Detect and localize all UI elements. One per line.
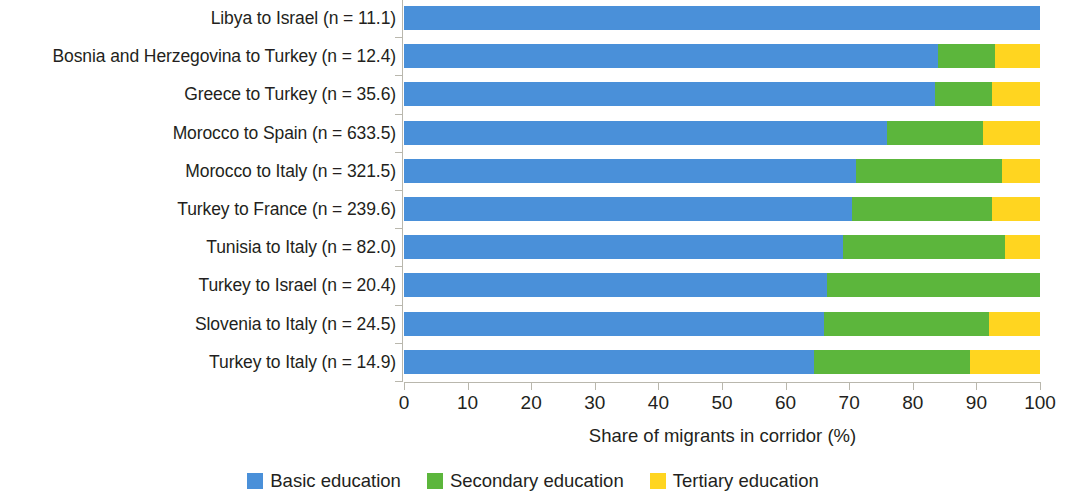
legend-label: Basic education bbox=[270, 470, 401, 492]
legend-item[interactable]: Basic education bbox=[247, 470, 401, 492]
x-axis-tick-label: 50 bbox=[692, 392, 752, 414]
bar-segment-secondary-education[interactable] bbox=[824, 312, 989, 336]
x-axis-tick-label: 0 bbox=[374, 392, 434, 414]
y-axis-tick bbox=[395, 381, 403, 382]
x-axis-tick-label: 80 bbox=[883, 392, 943, 414]
x-axis-title: Share of migrants in corridor (%) bbox=[404, 425, 1041, 447]
bar-segment-basic-education[interactable] bbox=[404, 350, 814, 374]
x-axis-tick bbox=[976, 382, 977, 390]
bar-segment-secondary-education[interactable] bbox=[827, 273, 1040, 297]
x-axis-tick bbox=[786, 382, 787, 390]
bar-segment-basic-education[interactable] bbox=[404, 273, 827, 297]
y-axis-line bbox=[402, 0, 403, 382]
bar-segment-basic-education[interactable] bbox=[404, 312, 824, 336]
x-axis-tick bbox=[404, 382, 405, 390]
bar-segment-secondary-education[interactable] bbox=[935, 82, 992, 106]
legend-item[interactable]: Secondary education bbox=[427, 470, 624, 492]
bar-segment-tertiary-education[interactable] bbox=[970, 350, 1040, 374]
legend-label: Tertiary education bbox=[673, 470, 819, 492]
bar-row[interactable] bbox=[404, 235, 1040, 259]
x-axis-tick-label: 20 bbox=[501, 392, 561, 414]
category-label: Morocco to Spain (n = 633.5) bbox=[0, 121, 396, 145]
chart-legend: Basic educationSecondary educationTertia… bbox=[0, 470, 1066, 492]
x-axis-tick-label: 60 bbox=[756, 392, 816, 414]
bar-row[interactable] bbox=[404, 44, 1040, 68]
bar-segment-secondary-education[interactable] bbox=[856, 159, 1002, 183]
y-axis-tick bbox=[395, 75, 403, 76]
x-axis-tick bbox=[849, 382, 850, 390]
bar-segment-basic-education[interactable] bbox=[404, 121, 887, 145]
bar-segment-basic-education[interactable] bbox=[404, 159, 856, 183]
legend-swatch-icon bbox=[427, 473, 443, 489]
x-axis-tick bbox=[468, 382, 469, 390]
x-axis-tick-label: 70 bbox=[819, 392, 879, 414]
x-axis-tick bbox=[531, 382, 532, 390]
bar-segment-basic-education[interactable] bbox=[404, 235, 843, 259]
x-axis-tick bbox=[722, 382, 723, 390]
category-label: Turkey to France (n = 239.6) bbox=[0, 197, 396, 221]
y-axis-tick bbox=[395, 37, 403, 38]
bar-segment-secondary-education[interactable] bbox=[814, 350, 970, 374]
bar-segment-basic-education[interactable] bbox=[404, 82, 935, 106]
bar-segment-secondary-education[interactable] bbox=[852, 197, 992, 221]
x-axis-tick-label: 40 bbox=[628, 392, 688, 414]
legend-swatch-icon bbox=[247, 473, 263, 489]
bar-segment-basic-education[interactable] bbox=[404, 6, 1040, 30]
bar-row[interactable] bbox=[404, 6, 1040, 30]
x-axis-tick bbox=[913, 382, 914, 390]
bar-segment-tertiary-education[interactable] bbox=[983, 121, 1040, 145]
category-label: Slovenia to Italy (n = 24.5) bbox=[0, 312, 396, 336]
x-axis-tick-label: 100 bbox=[1010, 392, 1066, 414]
x-axis-tick-label: 10 bbox=[438, 392, 498, 414]
bar-row[interactable] bbox=[404, 273, 1040, 297]
y-axis-tick bbox=[395, 266, 403, 267]
bar-segment-basic-education[interactable] bbox=[404, 197, 852, 221]
y-axis-tick bbox=[395, 305, 403, 306]
legend-swatch-icon bbox=[650, 473, 666, 489]
bar-segment-tertiary-education[interactable] bbox=[995, 44, 1040, 68]
category-label: Libya to Israel (n = 11.1) bbox=[0, 6, 396, 30]
category-label: Tunisia to Italy (n = 82.0) bbox=[0, 235, 396, 259]
bar-row[interactable] bbox=[404, 82, 1040, 106]
bar-segment-tertiary-education[interactable] bbox=[989, 312, 1040, 336]
y-axis-tick bbox=[395, 343, 403, 344]
y-axis-tick bbox=[395, 114, 403, 115]
y-axis-tick bbox=[395, 190, 403, 191]
x-axis-tick bbox=[1040, 382, 1041, 390]
y-axis-tick bbox=[395, 152, 403, 153]
x-axis-tick-label: 30 bbox=[565, 392, 625, 414]
legend-item[interactable]: Tertiary education bbox=[650, 470, 819, 492]
bar-segment-secondary-education[interactable] bbox=[843, 235, 1005, 259]
stacked-bar-chart: Libya to Israel (n = 11.1)Bosnia and Her… bbox=[0, 0, 1066, 496]
category-label: Morocco to Italy (n = 321.5) bbox=[0, 159, 396, 183]
y-axis-tick bbox=[395, 228, 403, 229]
bar-row[interactable] bbox=[404, 159, 1040, 183]
x-axis-tick bbox=[595, 382, 596, 390]
bar-row[interactable] bbox=[404, 197, 1040, 221]
bar-segment-secondary-education[interactable] bbox=[887, 121, 982, 145]
legend-label: Secondary education bbox=[450, 470, 624, 492]
plot-area bbox=[404, 6, 1040, 380]
bar-segment-basic-education[interactable] bbox=[404, 44, 938, 68]
bar-segment-secondary-education[interactable] bbox=[938, 44, 995, 68]
bar-segment-tertiary-education[interactable] bbox=[992, 197, 1040, 221]
bar-segment-tertiary-education[interactable] bbox=[1005, 235, 1040, 259]
category-label: Bosnia and Herzegovina to Turkey (n = 12… bbox=[0, 44, 396, 68]
x-axis-tick bbox=[658, 382, 659, 390]
bar-row[interactable] bbox=[404, 312, 1040, 336]
bar-row[interactable] bbox=[404, 350, 1040, 374]
bar-row[interactable] bbox=[404, 121, 1040, 145]
category-label: Greece to Turkey (n = 35.6) bbox=[0, 82, 396, 106]
x-axis-tick-label: 90 bbox=[946, 392, 1006, 414]
bar-segment-tertiary-education[interactable] bbox=[992, 82, 1040, 106]
category-label: Turkey to Israel (n = 20.4) bbox=[0, 273, 396, 297]
category-label: Turkey to Italy (n = 14.9) bbox=[0, 350, 396, 374]
bar-segment-tertiary-education[interactable] bbox=[1002, 159, 1040, 183]
